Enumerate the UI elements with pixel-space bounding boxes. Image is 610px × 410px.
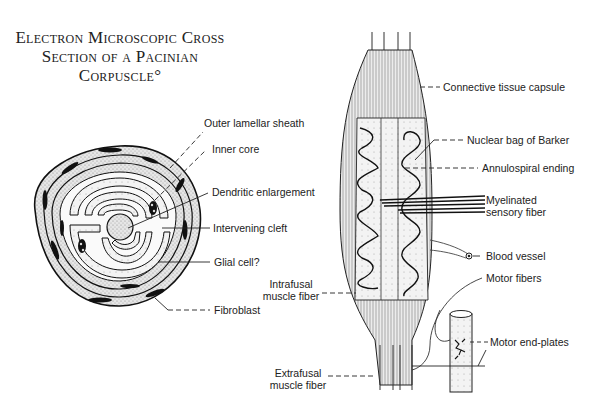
diagram-canvas: Electron Microscopic Cross Section of a … [0, 0, 610, 410]
label-intrafusal-line-2: muscle fiber [258, 290, 324, 302]
label-outer-lamellar-sheath: Outer lamellar sheath [204, 117, 304, 129]
label-annulospiral-ending: Annulospiral ending [482, 162, 574, 174]
label-dendritic-enlargement: Dendritic enlargement [212, 186, 315, 198]
label-nuclear-bag-of-barker: Nuclear bag of Barker [467, 134, 569, 146]
label-myelinated-line-2: sensory fiber [486, 206, 546, 218]
pacinian-corpuscle-drawing [35, 132, 210, 310]
label-inner-core: Inner core [212, 143, 259, 155]
label-intrafusal-line-1: Intrafusal [258, 278, 324, 290]
label-extrafusal-line-1: Extrafusal [265, 367, 331, 379]
label-myelinated-sensory-fiber: Myelinated sensory fiber [486, 194, 546, 218]
label-blood-vessel: Blood vessel [486, 250, 546, 262]
label-motor-end-plates: Motor end-plates [490, 336, 569, 348]
label-glial-cell: Glial cell? [214, 256, 260, 268]
label-extrafusal-muscle-fiber: Extrafusal muscle fiber [265, 367, 331, 391]
label-connective-tissue-capsule: Connective tissue capsule [443, 81, 565, 93]
label-myelinated-line-1: Myelinated [486, 194, 546, 206]
label-fibroblast: Fibroblast [214, 304, 260, 316]
label-motor-fibers: Motor fibers [486, 272, 541, 284]
label-intervening-cleft: Intervening cleft [213, 222, 287, 234]
label-extrafusal-line-2: muscle fiber [265, 379, 331, 391]
label-intrafusal-muscle-fiber: Intrafusal muscle fiber [258, 278, 324, 302]
